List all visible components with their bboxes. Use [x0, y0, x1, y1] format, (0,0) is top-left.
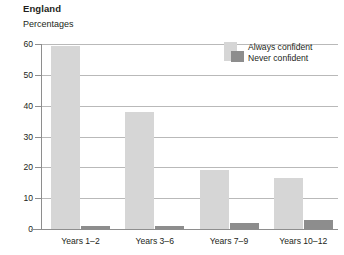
legend-swatch-never-confident	[231, 51, 244, 62]
y-axis-labels: 0102030405060	[0, 0, 33, 255]
y-axis-tick-label: 40	[7, 102, 33, 111]
bar-never-confident	[230, 223, 259, 229]
chart-legend: Always confident Never confident	[224, 42, 342, 68]
bar-always-confident	[125, 112, 154, 229]
gridline	[41, 137, 338, 138]
x-axis-tick-label: Years 10–12	[263, 236, 343, 246]
bar-always-confident	[200, 170, 229, 229]
bar-always-confident	[51, 46, 80, 229]
x-axis-tick-label: Years 1–2	[41, 236, 121, 246]
y-axis-tick-label: 0	[7, 225, 33, 234]
legend-label-never-confident: Never confident	[248, 53, 308, 63]
bar-never-confident	[304, 220, 333, 229]
gridline	[41, 167, 338, 168]
y-axis-tick-label: 50	[7, 71, 33, 80]
y-axis-tick-label: 60	[7, 40, 33, 49]
y-axis-tick-label: 20	[7, 163, 33, 172]
x-axis-line	[31, 229, 338, 230]
bar-never-confident	[155, 226, 184, 229]
y-axis-tick-label: 10	[7, 194, 33, 203]
gridline	[41, 106, 338, 107]
bar-always-confident	[274, 178, 303, 229]
x-axis-tick-label: Years 3–6	[115, 236, 195, 246]
gridline	[41, 75, 338, 76]
x-axis-tick-label: Years 7–9	[189, 236, 269, 246]
y-axis-line	[41, 44, 42, 230]
y-axis-tick-label: 30	[7, 133, 33, 142]
bar-never-confident	[81, 226, 110, 229]
legend-label-always-confident: Always confident	[248, 42, 313, 52]
bar-chart: England Percentages 0102030405060 Years …	[0, 0, 344, 255]
